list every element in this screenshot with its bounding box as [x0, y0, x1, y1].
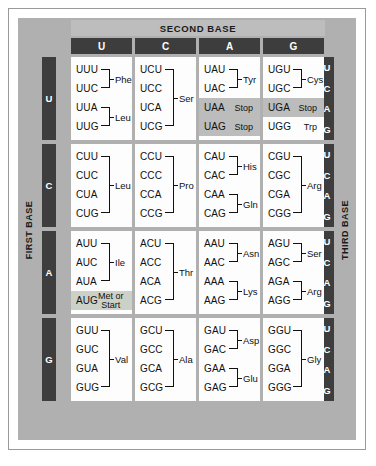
- second-base-header-g[interactable]: G: [263, 38, 324, 54]
- codon-label: UGU: [263, 64, 291, 75]
- codon-row[interactable]: UGAStop: [263, 98, 324, 117]
- codon-label: CCC: [135, 170, 162, 181]
- codon-row[interactable]: CCU: [135, 147, 196, 166]
- codon-row[interactable]: GAU: [199, 321, 260, 340]
- codon-row[interactable]: UUU: [71, 60, 132, 79]
- codon-label: CUU: [71, 151, 98, 162]
- codon-cell-gu: GUUGUCGUAGUGVal: [71, 318, 132, 401]
- codon-row[interactable]: GCC: [135, 340, 196, 359]
- codon-row[interactable]: CCC: [135, 166, 196, 185]
- codon-row[interactable]: AUGMet orStart: [71, 291, 132, 310]
- second-base-header-u[interactable]: U: [71, 38, 132, 54]
- codon-row[interactable]: GGG: [263, 378, 324, 397]
- codon-row[interactable]: CCG: [135, 204, 196, 223]
- codon-label: UUU: [71, 64, 98, 75]
- first-base-header: FIRST BASE: [20, 56, 39, 404]
- codon-row[interactable]: UCA: [135, 98, 196, 117]
- codon-row[interactable]: CGG: [263, 204, 324, 223]
- codon-row[interactable]: ACU: [135, 234, 196, 253]
- codon-list: GGUGGCGGAGGGGly: [263, 318, 324, 401]
- codon-row[interactable]: UCC: [135, 79, 196, 98]
- codon-row[interactable]: GUA: [71, 359, 132, 378]
- codon-row[interactable]: CGC: [263, 166, 324, 185]
- codon-row[interactable]: GUC: [71, 340, 132, 359]
- start-codon-label: Met orStart: [98, 292, 133, 310]
- codon-row[interactable]: AAA: [199, 272, 260, 291]
- codon-row[interactable]: CUU: [71, 147, 132, 166]
- codon-row[interactable]: AAU: [199, 234, 260, 253]
- codon-row[interactable]: AGG: [263, 291, 324, 310]
- first-base-row-label-u[interactable]: U: [42, 57, 56, 140]
- codon-list: UGUUGCUGAStopUGGTrpCys: [263, 57, 324, 140]
- codon-row[interactable]: CUA: [71, 185, 132, 204]
- second-base-label: SECOND BASE: [160, 23, 236, 34]
- second-base-header: SECOND BASE: [71, 20, 325, 36]
- codon-row[interactable]: CGA: [263, 185, 324, 204]
- codon-row[interactable]: GCA: [135, 359, 196, 378]
- codon-row[interactable]: CUG: [71, 204, 132, 223]
- codon-label: AUA: [71, 276, 97, 287]
- codon-row[interactable]: GAA: [199, 359, 260, 378]
- codon-row[interactable]: AUC: [71, 253, 132, 272]
- codon-row[interactable]: GGC: [263, 340, 324, 359]
- codon-row[interactable]: ACG: [135, 291, 196, 310]
- codon-row[interactable]: UCG: [135, 117, 196, 136]
- codon-row[interactable]: AUU: [71, 234, 132, 253]
- codon-row[interactable]: UCU: [135, 60, 196, 79]
- codon-row[interactable]: CAC: [199, 166, 260, 185]
- codon-label: GUC: [71, 344, 99, 355]
- codon-cell-ua: UAUUACUAAStopUAGStopTyr: [199, 57, 260, 140]
- codon-row[interactable]: GCU: [135, 321, 196, 340]
- codon-row[interactable]: GGU: [263, 321, 324, 340]
- codon-row[interactable]: AGU: [263, 234, 324, 253]
- codon-row[interactable]: UUG: [71, 117, 132, 136]
- codon-label: AAG: [199, 295, 225, 306]
- codon-row[interactable]: CAA: [199, 185, 260, 204]
- codon-label: AAA: [199, 276, 224, 287]
- codon-row[interactable]: UAU: [199, 60, 260, 79]
- codon-row[interactable]: UGU: [263, 60, 324, 79]
- codon-row[interactable]: CGU: [263, 147, 324, 166]
- codon-row[interactable]: GAC: [199, 340, 260, 359]
- codon-label: UCC: [135, 83, 162, 94]
- codon-row[interactable]: UAAStop: [199, 98, 260, 117]
- codon-row[interactable]: GGA: [263, 359, 324, 378]
- codon-row[interactable]: AGC: [263, 253, 324, 272]
- codon-row[interactable]: ACA: [135, 272, 196, 291]
- codon-label: CAU: [199, 151, 225, 162]
- codon-row[interactable]: UGC: [263, 79, 324, 98]
- codon-row[interactable]: GAG: [199, 378, 260, 397]
- codon-row[interactable]: GUU: [71, 321, 132, 340]
- first-base-row-label-g[interactable]: G: [42, 318, 56, 401]
- codon-row[interactable]: UUA: [71, 98, 132, 117]
- third-base-label: THIRD BASE: [340, 200, 350, 260]
- codon-row[interactable]: UUC: [71, 79, 132, 98]
- codon-row[interactable]: AAG: [199, 291, 260, 310]
- codon-cell-gg: GGUGGCGGAGGGGly: [263, 318, 324, 401]
- codon-row[interactable]: GCG: [135, 378, 196, 397]
- codon-label: UCA: [135, 102, 161, 113]
- codon-row[interactable]: UAGStop: [199, 117, 260, 136]
- first-base-row-label-c[interactable]: C: [42, 144, 56, 227]
- codon-label: CAG: [199, 208, 226, 219]
- codon-label: CCU: [135, 151, 162, 162]
- codon-row[interactable]: CAU: [199, 147, 260, 166]
- codon-row[interactable]: CCA: [135, 185, 196, 204]
- codon-label: UCU: [135, 64, 162, 75]
- codon-row[interactable]: CAG: [199, 204, 260, 223]
- first-base-row-label-a[interactable]: A: [42, 231, 56, 314]
- codon-row[interactable]: UGGTrp: [263, 117, 324, 136]
- codon-list: CAUCACCAACAGHisGln: [199, 144, 260, 227]
- second-base-header-a[interactable]: A: [199, 38, 260, 54]
- codon-row[interactable]: ACC: [135, 253, 196, 272]
- codon-label: ACA: [135, 276, 161, 287]
- codon-row[interactable]: AGA: [263, 272, 324, 291]
- codon-list: AUUAUCAUAAUGMet orStartIle: [71, 231, 132, 314]
- codon-row[interactable]: GUG: [71, 378, 132, 397]
- codon-list: GAUGACGAAGAGAspGlu: [199, 318, 260, 401]
- codon-row[interactable]: UAC: [199, 79, 260, 98]
- codon-row[interactable]: AAC: [199, 253, 260, 272]
- codon-row[interactable]: CUC: [71, 166, 132, 185]
- codon-row[interactable]: AUA: [71, 272, 132, 291]
- second-base-header-c[interactable]: C: [135, 38, 196, 54]
